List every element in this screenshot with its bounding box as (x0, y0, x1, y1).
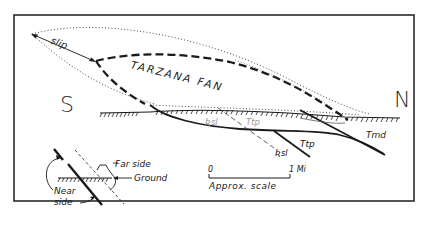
legend-far-side-label: Far side (115, 159, 151, 169)
scale-caption: Approx. scale (208, 181, 277, 191)
scale-end-label: 1 Mi (289, 165, 307, 174)
legend-inset: Far side Ground Near side (46, 149, 167, 207)
scale-start-label: 0 (208, 165, 213, 174)
legend-ground-label: Ground (134, 173, 168, 183)
legend-near-label: Near (54, 186, 77, 196)
scale-bar (209, 174, 290, 178)
rsl-lower-label: Ʀsl (275, 148, 288, 158)
compass-north-label: N (394, 87, 410, 112)
legend-fault-near-lower (68, 164, 102, 205)
tarzana-fan-label: TARZANA FAN (130, 58, 225, 93)
slip-arrowhead-tail-icon (89, 58, 96, 63)
ground-surface-left (100, 112, 150, 113)
compass-south-label: S (60, 92, 74, 117)
legend-side-label: side (54, 197, 73, 207)
rsl-upper-label: Ʀsl (205, 117, 218, 127)
tmd-label: Tmd (366, 130, 386, 140)
ttp-upper-label: Ttp (246, 117, 260, 127)
ttp-lower-label: Ttp (300, 139, 315, 149)
geologic-cross-section: S N slip TARZANA FAN Ʀsl Ttp Ʀsl Ttp Tmd… (0, 0, 440, 226)
